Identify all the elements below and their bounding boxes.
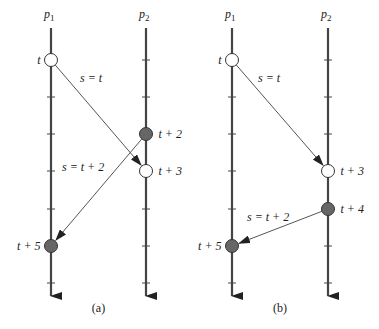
event-time-label: t + 2 — [159, 127, 182, 141]
event-time-label: t + 4 — [341, 202, 364, 216]
send-event-node — [322, 165, 335, 178]
message-label: s = t — [258, 71, 281, 85]
process-label: p1 — [224, 7, 236, 23]
panel-caption: (a) — [92, 301, 105, 315]
process-label: p2 — [320, 7, 332, 23]
receive-event-node — [140, 128, 153, 141]
panel-a: p1p2s = ts = t + 2tt + 2t + 3t + 5(a) — [17, 7, 182, 315]
send-event-node — [45, 54, 58, 67]
clock-diagram: p1p2s = ts = t + 2tt + 2t + 3t + 5(a)p1p… — [0, 0, 379, 329]
event-time-label: t + 5 — [17, 239, 40, 253]
send-event-node — [226, 54, 239, 67]
space-time-diagram: p1p2s = ts = t + 2tt + 2t + 3t + 5(a)p1p… — [0, 0, 379, 329]
receive-event-node — [322, 203, 335, 216]
message-label: s = t — [80, 71, 103, 85]
event-time-label: t + 3 — [159, 164, 182, 178]
panel-caption: (b) — [273, 301, 287, 315]
receive-event-node — [45, 240, 58, 253]
panel-b: p1p2s = ts = t + 2tt + 3t + 4t + 5(b) — [198, 7, 364, 315]
process-label: p2 — [138, 7, 150, 23]
message-arrow — [56, 139, 142, 240]
receive-event-node — [226, 240, 239, 253]
message-label: s = t + 2 — [247, 210, 289, 224]
event-time-label: t + 5 — [198, 239, 221, 253]
event-time-label: t + 3 — [341, 164, 364, 178]
message-label: s = t + 2 — [62, 160, 104, 174]
event-time-label: t — [37, 53, 41, 67]
process-label: p1 — [43, 7, 55, 23]
event-time-label: t — [218, 53, 222, 67]
send-event-node — [140, 165, 153, 178]
